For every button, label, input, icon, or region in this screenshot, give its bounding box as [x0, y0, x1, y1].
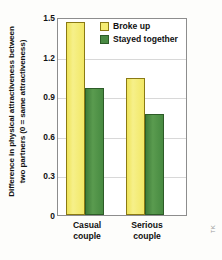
x-category-serious-line-2: couple	[117, 231, 177, 242]
credit-mark: TK	[211, 225, 217, 234]
yellow-swatch-icon	[100, 22, 109, 31]
bar-serious-stayed-together	[145, 114, 164, 215]
y-tick-0.9: 0.9	[33, 92, 55, 102]
y-axis-title: Difference in physical attractiveness be…	[0, 0, 34, 222]
y-axis-title-line-1: Difference in physical attractiveness be…	[7, 26, 16, 196]
legend-label-stayed-together: Stayed together	[113, 34, 178, 44]
y-tick-1.2: 1.2	[33, 53, 55, 63]
x-category-casual-couple: Casual couple	[57, 220, 117, 242]
x-category-casual-line-1: Casual	[73, 220, 101, 230]
legend-item-broke-up: Broke up	[100, 21, 178, 31]
y-axis-title-line-2: two partners (0 = same attractiveness)	[17, 26, 28, 196]
y-tick-0: 0	[33, 211, 55, 221]
x-category-serious-couple: Serious couple	[117, 220, 177, 242]
bar-chart-figure: Difference in physical attractiveness be…	[0, 0, 222, 260]
x-category-casual-line-2: couple	[57, 231, 117, 242]
bar-casual-stayed-together	[85, 88, 104, 215]
chart-legend: Broke up Stayed together	[100, 21, 178, 44]
y-tick-0.3: 0.3	[33, 171, 55, 181]
y-tick-0.6: 0.6	[33, 132, 55, 142]
bar-serious-broke-up	[126, 78, 145, 215]
y-axis-tick-labels: 0 0.3 0.6 0.9 1.2 1.5	[30, 0, 55, 260]
legend-item-stayed-together: Stayed together	[100, 34, 178, 44]
y-tick-1.5: 1.5	[33, 13, 55, 23]
bar-casual-broke-up	[66, 22, 85, 215]
plot-area	[57, 18, 187, 216]
x-category-serious-line-1: Serious	[131, 220, 163, 230]
green-swatch-icon	[100, 35, 109, 44]
legend-label-broke-up: Broke up	[113, 21, 150, 31]
